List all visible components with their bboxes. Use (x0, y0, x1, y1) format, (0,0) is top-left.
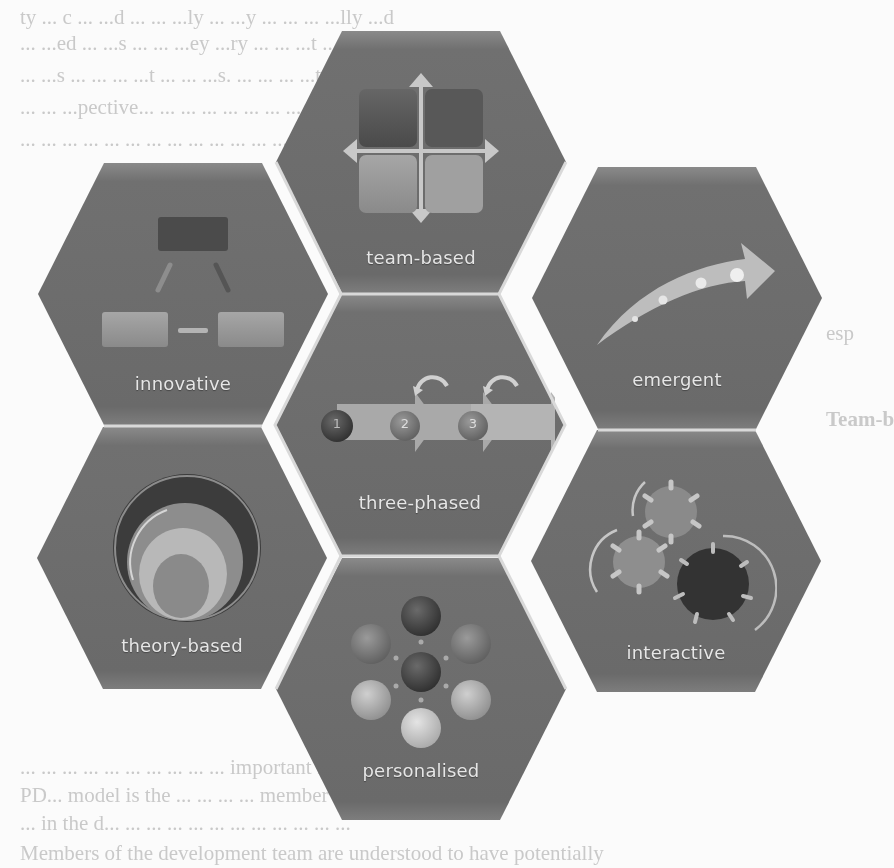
phase-number: 1 (330, 416, 344, 431)
hex-label: emergent (532, 369, 822, 390)
hex-emergent: emergent (532, 167, 822, 429)
hex-label: personalised (276, 760, 566, 781)
hierarchy-boxes-icon (98, 213, 288, 353)
curved-arrow-icon (587, 217, 787, 347)
gears-icon (587, 474, 777, 644)
phase-circles-icon (315, 406, 555, 446)
hex-interactive: interactive (531, 430, 821, 692)
radial-circles-icon (346, 594, 496, 754)
phase-number: 2 (398, 416, 412, 431)
concentric-circles-icon (107, 470, 267, 630)
hex-label: interactive (531, 642, 821, 663)
hex-personalised: personalised (276, 558, 566, 820)
four-squares-arrows-icon (341, 71, 501, 231)
phase-number: 3 (466, 416, 480, 431)
